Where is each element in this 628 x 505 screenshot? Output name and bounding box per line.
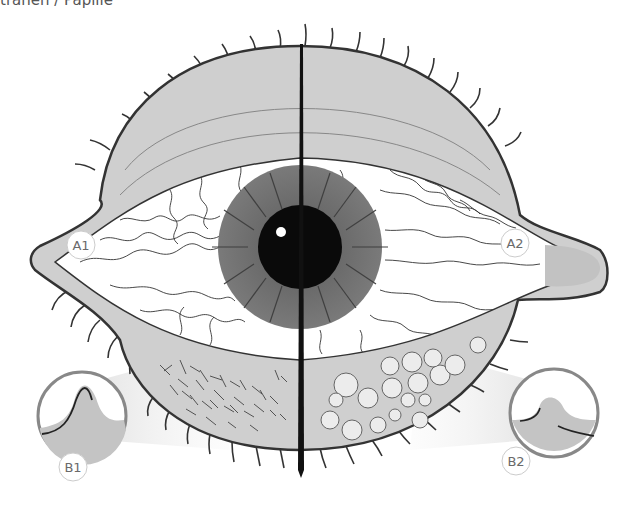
pupil-highlight (276, 227, 286, 237)
label-a1-text: A1 (72, 238, 89, 253)
eye-diagram: A1 A2 B1 B2 (0, 0, 628, 505)
label-a2-text: A2 (506, 236, 523, 251)
label-b1-text: B1 (64, 460, 81, 475)
label-b2-text: B2 (507, 454, 524, 469)
inset-b1: B1 (38, 372, 126, 481)
label-a1: A1 (67, 231, 95, 259)
label-a2: A2 (501, 229, 529, 257)
